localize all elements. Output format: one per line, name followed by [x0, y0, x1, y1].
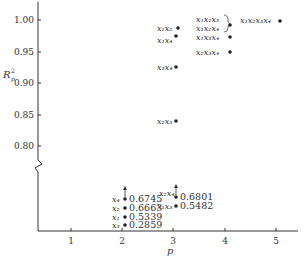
p5-points: x₁x₂x₃x₄ [240, 16, 282, 25]
p3-high-points: x₁x₂ x₁x₄ x₃x₄ x₂x₃ [157, 24, 180, 126]
x-axis-title: p [167, 245, 174, 256]
point-label: x₁x₃x₄ [196, 33, 219, 42]
x-tick-label: 4 [222, 236, 228, 246]
y-axis [35, 2, 42, 231]
x-tick-label: 2 [119, 236, 125, 246]
point-label: x₂x₃ [157, 117, 172, 126]
point-label: x₁x₄ [157, 36, 172, 45]
y-tick-label: 0.85 [14, 110, 34, 120]
x-tick-label: 1 [68, 236, 74, 246]
point-label: x₁x₂x₃ [196, 15, 219, 24]
best-subsets-r2-chart: 1.00 0.95 0.90 0.85 0.80 R 2 p 1 2 3 4 5… [0, 0, 306, 264]
point-label: x₁x₃ [157, 202, 172, 211]
p4-points: x₁x₂x₃ x₁x₂x₄ x₁x₃x₄ x₂x₃x₄ [196, 15, 232, 57]
x-tick-label: 5 [273, 236, 279, 246]
point-label: x₂ [112, 204, 120, 213]
point-label: x₂x₃x₄ [196, 48, 219, 57]
point-value: 0.5482 [180, 200, 213, 211]
p2-points: x₄ 0.6745 x₂ 0.6663 x₁ 0.5339 x₃ 0.2859 [112, 186, 162, 230]
point-label: x₂x₄ [159, 189, 174, 198]
point-label: x₁x₂x₄ [196, 24, 219, 33]
y-tick-label: 1.00 [14, 15, 34, 25]
y-tick-label: 0.80 [14, 141, 34, 151]
point-label: x₁x₂x₃x₄ [240, 16, 271, 25]
y-tick-label: 0.90 [14, 78, 34, 88]
y-axis-title-sup: 2 [11, 67, 15, 74]
p3-low-points: x₂x₄ 0.6801 x₁x₃ 0.5482 [157, 184, 213, 211]
y-axis-title-sub: p [11, 75, 15, 83]
y-tick-label: 0.95 [14, 47, 34, 57]
point-label: x₃ [112, 221, 120, 230]
point-label: x₄ [112, 195, 120, 204]
y-axis-title: R [2, 69, 11, 80]
point-label: x₃x₄ [157, 63, 172, 72]
chart-svg: 1.00 0.95 0.90 0.85 0.80 R 2 p 1 2 3 4 5… [0, 0, 306, 264]
point-value: 0.2859 [129, 219, 162, 230]
point-label: x₁x₂ [157, 24, 172, 33]
